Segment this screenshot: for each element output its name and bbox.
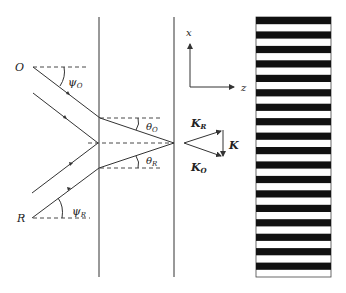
psi-o-arc (60, 67, 65, 86)
k-o-vector (184, 143, 221, 156)
k-r-vector (184, 131, 221, 143)
fringe-band (256, 161, 331, 168)
psi-o-label: ψO (68, 76, 83, 90)
fringe-band (256, 263, 331, 270)
ray-direction-arrows (63, 91, 73, 191)
reference-label: R (16, 212, 25, 225)
object-label: O (15, 61, 24, 74)
coordinate-axes (190, 44, 234, 87)
psi-r-label: ψR (72, 205, 87, 219)
angle-arcs (58, 67, 139, 218)
k-label: K (228, 139, 239, 152)
fringe-band (256, 31, 331, 38)
fringe-band (256, 147, 331, 154)
fringe-band (256, 17, 331, 24)
fringe-band (256, 104, 331, 111)
theta-o-label: θO (146, 121, 158, 134)
fringe-band (256, 133, 331, 140)
fringe-band (256, 118, 331, 125)
theta-r-label: θR (146, 155, 158, 168)
fringe-band (256, 219, 331, 226)
interference-fringes (256, 17, 331, 277)
fringe-band (256, 60, 331, 67)
reference-beam (32, 143, 174, 218)
fringe-band (256, 46, 331, 53)
wave-vector-diagram (184, 130, 223, 156)
x-axis-label: x (186, 27, 192, 38)
fringe-band (256, 176, 331, 183)
fringe-band (256, 190, 331, 197)
psi-r-arc (58, 198, 63, 218)
k-r-label: KR (190, 117, 207, 131)
dashed-reference-lines (33, 67, 174, 218)
z-axis-label: z (240, 82, 247, 93)
fringe-band (256, 75, 331, 82)
fringe-band (256, 205, 331, 212)
k-o-label: KO (190, 161, 208, 175)
fringe-band (256, 234, 331, 241)
hologram-diagram: O R ψO θO θR ψR x z KR K KO (0, 0, 346, 293)
fringe-band (256, 248, 331, 255)
fringe-band (256, 89, 331, 96)
theta-r-arc (136, 156, 139, 168)
theta-o-arc (136, 118, 139, 130)
